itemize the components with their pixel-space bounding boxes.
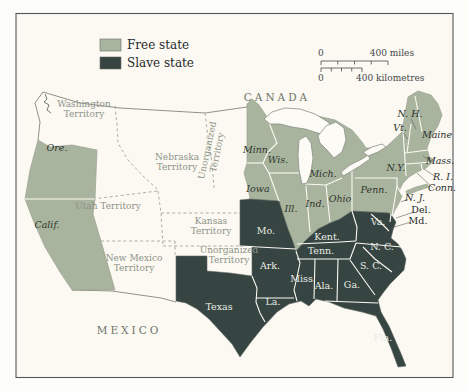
map-label-missouri: Mo.	[257, 225, 275, 236]
map-label-mississippi: Miss.	[290, 273, 316, 284]
map-label-new-hampshire: N. H.	[396, 108, 422, 119]
map-label-ohio: Ohio	[329, 193, 352, 204]
map-label-tennessee: Tenn.	[308, 245, 334, 256]
scale-km-end: 400 kilometres	[356, 73, 425, 83]
map-label-maryland: Md.	[409, 215, 428, 226]
scale-miles-start: 0	[318, 48, 324, 58]
map-label-texas: Texas	[205, 301, 232, 312]
map-label-connecticut: Conn.	[428, 182, 456, 193]
map-label-south-carolina: S. C.	[360, 260, 382, 271]
map-label-illinois: Ill.	[284, 203, 298, 214]
map-label-california: Calif.	[34, 219, 59, 230]
map-figure: CANADAMEXICOOre.Calif.Minn.Wis.Mich.Iowa…	[0, 0, 467, 391]
map-label-arkansas: Ark.	[259, 260, 280, 271]
map-label-mexico: MEXICO	[97, 324, 162, 336]
map-label-oregon: Ore.	[47, 142, 68, 153]
map-label-florida: Fla.	[374, 332, 392, 343]
map-label-utah-territory: Utah Territory	[75, 201, 142, 211]
map-label-michigan: Mich.	[308, 168, 336, 179]
map-label-indiana: Ind.	[305, 198, 325, 209]
map-label-kentucky: Kent.	[314, 231, 339, 242]
map-label-washington-territory: WashingtonTerritory	[57, 99, 111, 119]
map-label-virginia: Va.	[370, 216, 386, 227]
map-label-delaware: Del.	[411, 204, 430, 215]
map-label-north-carolina: N. C.	[370, 241, 394, 252]
legend-swatch-free-state	[100, 39, 121, 51]
scale-miles-end: 400 miles	[370, 48, 415, 58]
map-label-georgia: Ga.	[344, 279, 360, 290]
map-label-new-york: N.Y.	[386, 162, 406, 173]
legend-label-slave-state: Slave state	[127, 56, 194, 70]
map-label-nebraska-territory: NebraskaTerritory	[155, 152, 200, 172]
legend-swatch-slave-state	[100, 57, 121, 69]
map-label-alabama: Ala.	[314, 280, 334, 291]
map-label-louisiana: La.	[266, 296, 281, 307]
map-label-minnesota: Minn.	[242, 144, 271, 155]
map-label-maine: Maine	[421, 129, 453, 140]
scale-km-start: 0	[318, 73, 324, 83]
map-label-pennsylvania: Penn.	[360, 184, 388, 195]
map-label-wisconsin: Wis.	[268, 154, 289, 165]
map-label-rhode-island: R. I.	[432, 171, 453, 182]
map-label-new-mexico-territory: New MexicoTerritory	[106, 253, 163, 273]
historical-map-svg: CANADAMEXICOOre.Calif.Minn.Wis.Mich.Iowa…	[0, 0, 467, 391]
map-label-massachusetts: Mass.	[425, 155, 454, 166]
map-label-iowa: Iowa	[245, 183, 270, 194]
map-label-vermont: Vt.	[393, 122, 407, 133]
map-label-kansas-territory: KansasTerritory	[191, 216, 232, 236]
map-label-new-jersey: N. J.	[404, 192, 425, 203]
map-label-canada: CANADA	[244, 91, 310, 103]
legend-label-free-state: Free state	[127, 38, 189, 52]
